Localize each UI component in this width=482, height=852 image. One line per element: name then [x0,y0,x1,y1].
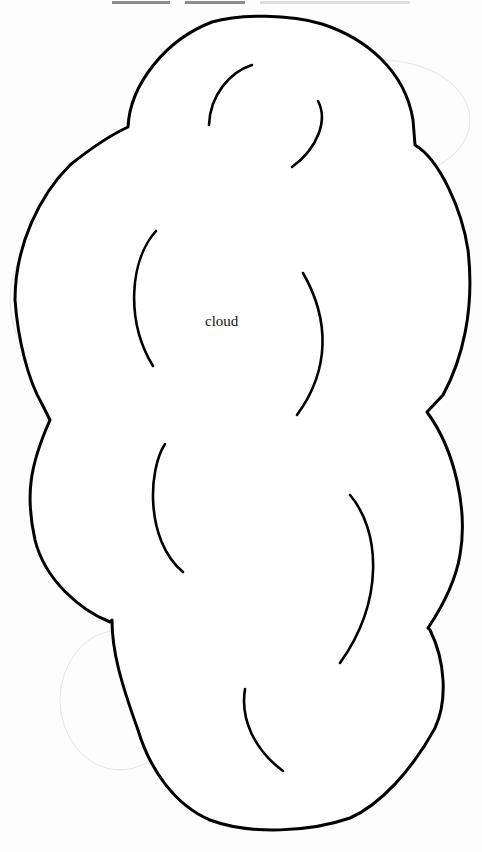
cloud-outline [15,16,470,830]
cloud-label: cloud [205,313,238,330]
coloring-page: cloud [0,0,482,852]
cloud-outline-drawing [0,0,482,852]
